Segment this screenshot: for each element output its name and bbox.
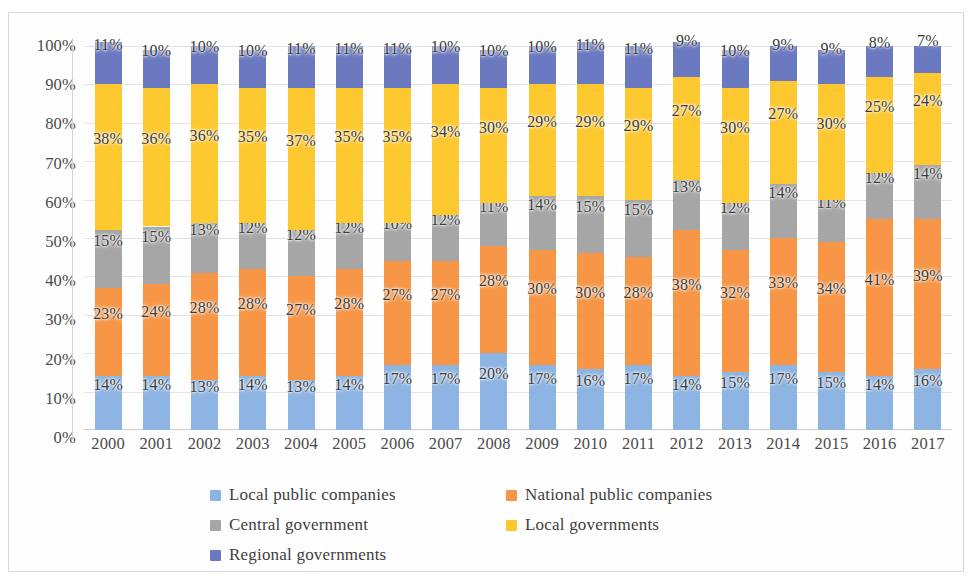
bar-segment[interactable] bbox=[866, 173, 893, 219]
bar-segment[interactable] bbox=[384, 88, 411, 222]
bar-segment[interactable] bbox=[914, 73, 941, 165]
bar-segment[interactable] bbox=[432, 261, 459, 365]
bar-segment[interactable] bbox=[625, 46, 652, 88]
bar-segment[interactable] bbox=[239, 269, 266, 377]
bar-segment[interactable] bbox=[625, 200, 652, 258]
bar-segment[interactable] bbox=[673, 376, 700, 430]
bar-segment[interactable] bbox=[722, 88, 749, 203]
bar-segment[interactable] bbox=[336, 46, 363, 88]
bar-2003[interactable]: 14%28%12%35%10% bbox=[239, 46, 266, 430]
bar-segment[interactable] bbox=[673, 180, 700, 230]
bar-segment[interactable] bbox=[384, 365, 411, 430]
bar-segment[interactable] bbox=[384, 46, 411, 88]
bar-segment[interactable] bbox=[95, 84, 122, 230]
bar-segment[interactable] bbox=[625, 365, 652, 430]
bar-segment[interactable] bbox=[288, 380, 315, 430]
bar-segment[interactable] bbox=[336, 88, 363, 222]
bar-segment[interactable] bbox=[191, 84, 218, 222]
bar-segment[interactable] bbox=[336, 269, 363, 377]
bar-segment[interactable] bbox=[384, 223, 411, 261]
bar-segment[interactable] bbox=[239, 223, 266, 269]
bar-segment[interactable] bbox=[143, 284, 170, 376]
bar-segment[interactable] bbox=[866, 376, 893, 430]
bar-segment[interactable] bbox=[529, 46, 556, 84]
bar-2008[interactable]: 20%28%11%30%10% bbox=[480, 46, 507, 430]
bar-segment[interactable] bbox=[577, 369, 604, 430]
bar-segment[interactable] bbox=[95, 376, 122, 430]
bar-segment[interactable] bbox=[529, 250, 556, 365]
bar-segment[interactable] bbox=[673, 230, 700, 376]
bar-segment[interactable] bbox=[432, 365, 459, 430]
bar-segment[interactable] bbox=[239, 88, 266, 222]
bar-segment[interactable] bbox=[288, 230, 315, 276]
bar-segment[interactable] bbox=[95, 288, 122, 376]
bar-segment[interactable] bbox=[914, 369, 941, 430]
bar-segment[interactable] bbox=[818, 84, 845, 199]
bar-2011[interactable]: 17%28%15%29%11% bbox=[625, 46, 652, 430]
bar-segment[interactable] bbox=[577, 84, 604, 195]
bar-segment[interactable] bbox=[625, 88, 652, 199]
bar-2013[interactable]: 15%32%12%30%10% bbox=[722, 46, 749, 430]
bar-segment[interactable] bbox=[818, 372, 845, 430]
bar-segment[interactable] bbox=[143, 227, 170, 285]
bar-2010[interactable]: 16%30%15%29%11% bbox=[577, 46, 604, 430]
bar-segment[interactable] bbox=[288, 46, 315, 88]
bar-segment[interactable] bbox=[143, 50, 170, 88]
bar-segment[interactable] bbox=[722, 203, 749, 249]
bar-segment[interactable] bbox=[480, 88, 507, 203]
bar-segment[interactable] bbox=[529, 365, 556, 430]
bar-segment[interactable] bbox=[722, 372, 749, 430]
legend-item-central-government[interactable]: Central government bbox=[210, 515, 506, 535]
bar-segment[interactable] bbox=[818, 200, 845, 242]
bar-segment[interactable] bbox=[191, 273, 218, 381]
bar-segment[interactable] bbox=[480, 353, 507, 430]
bar-segment[interactable] bbox=[432, 46, 459, 84]
bar-2007[interactable]: 17%27%12%34%10% bbox=[432, 46, 459, 430]
bar-segment[interactable] bbox=[770, 46, 797, 81]
bar-segment[interactable] bbox=[95, 42, 122, 84]
bar-2014[interactable]: 17%33%14%27%9% bbox=[770, 46, 797, 430]
bar-segment[interactable] bbox=[770, 365, 797, 430]
bar-segment[interactable] bbox=[577, 253, 604, 368]
bar-2016[interactable]: 14%41%12%25%8% bbox=[866, 46, 893, 430]
bar-segment[interactable] bbox=[288, 276, 315, 380]
bar-2001[interactable]: 14%24%15%36%10% bbox=[143, 46, 170, 430]
bar-segment[interactable] bbox=[722, 250, 749, 373]
bar-segment[interactable] bbox=[625, 257, 652, 365]
bar-segment[interactable] bbox=[432, 215, 459, 261]
bar-segment[interactable] bbox=[529, 196, 556, 250]
bar-segment[interactable] bbox=[818, 242, 845, 373]
bar-2017[interactable]: 16%39%14%24%7% bbox=[914, 46, 941, 430]
bar-segment[interactable] bbox=[191, 223, 218, 273]
bar-segment[interactable] bbox=[673, 42, 700, 77]
bar-2015[interactable]: 15%34%11%30%9% bbox=[818, 46, 845, 430]
bar-segment[interactable] bbox=[480, 203, 507, 245]
legend-item-local-governments[interactable]: Local governments bbox=[506, 515, 802, 535]
legend-item-regional-governments[interactable]: Regional governments bbox=[210, 545, 506, 565]
bar-segment[interactable] bbox=[818, 50, 845, 85]
bar-segment[interactable] bbox=[866, 219, 893, 376]
bar-2000[interactable]: 14%23%15%38%11% bbox=[95, 46, 122, 430]
bar-2002[interactable]: 13%28%13%36%10% bbox=[191, 46, 218, 430]
bar-2005[interactable]: 14%28%12%35%11% bbox=[336, 46, 363, 430]
bar-segment[interactable] bbox=[143, 88, 170, 226]
bar-segment[interactable] bbox=[914, 165, 941, 219]
bar-2006[interactable]: 17%27%10%35%11% bbox=[384, 46, 411, 430]
bar-2009[interactable]: 17%30%14%29%10% bbox=[529, 46, 556, 430]
bar-segment[interactable] bbox=[191, 46, 218, 84]
legend-item-local-public-companies[interactable]: Local public companies bbox=[210, 485, 506, 505]
bar-segment[interactable] bbox=[336, 223, 363, 269]
bar-segment[interactable] bbox=[866, 46, 893, 77]
bar-segment[interactable] bbox=[770, 184, 797, 238]
bar-segment[interactable] bbox=[95, 230, 122, 288]
bar-segment[interactable] bbox=[384, 261, 411, 365]
bar-segment[interactable] bbox=[143, 376, 170, 430]
bar-segment[interactable] bbox=[770, 81, 797, 185]
bar-segment[interactable] bbox=[432, 84, 459, 215]
bar-segment[interactable] bbox=[480, 50, 507, 88]
bar-segment[interactable] bbox=[770, 238, 797, 365]
bar-segment[interactable] bbox=[191, 380, 218, 430]
bar-segment[interactable] bbox=[577, 42, 604, 84]
bar-segment[interactable] bbox=[914, 219, 941, 369]
bar-segment[interactable] bbox=[914, 46, 941, 73]
